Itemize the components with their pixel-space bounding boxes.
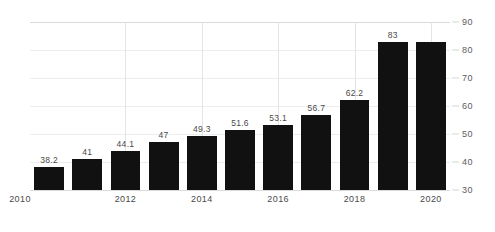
bar-2017: [301, 115, 331, 190]
y-tick-label-80: 80: [462, 45, 473, 55]
y-tick-mark: [452, 22, 459, 23]
bar-2018: [340, 100, 370, 190]
bar-value-label-2013: 47: [159, 130, 169, 140]
y-tick-label-60: 60: [462, 101, 473, 111]
bar-value-label-2010: 38.2: [40, 155, 58, 165]
y-tick-mark: [452, 78, 459, 79]
bar-2011: [72, 159, 102, 190]
bar-2016: [263, 125, 293, 190]
y-tick-label-50: 50: [462, 129, 473, 139]
y-tick-mark: [452, 50, 459, 51]
bar-value-label-2019: 83: [388, 30, 398, 40]
bar-2020: [416, 42, 446, 190]
y-tick-label-90: 90: [462, 17, 473, 27]
bar-2015: [225, 130, 255, 190]
bar-chart: 38.24144.14749.351.653.156.762.283 30405…: [0, 0, 495, 232]
bar-value-label-2012: 44.1: [117, 139, 135, 149]
bar-2019: [378, 42, 408, 190]
plot-area: 38.24144.14749.351.653.156.762.283: [30, 22, 450, 190]
x-tick-label-2012: 2012: [115, 194, 137, 204]
x-tick-label-2010: 2010: [9, 194, 31, 204]
y-tick-mark: [452, 190, 459, 191]
gridline-horizontal: [30, 22, 450, 23]
bar-value-label-2015: 51.6: [231, 118, 249, 128]
bar-2013: [149, 142, 179, 190]
x-tick-label-2014: 2014: [191, 194, 213, 204]
x-tick-label-2016: 2016: [267, 194, 289, 204]
bar-value-label-2016: 53.1: [269, 113, 287, 123]
bar-value-label-2014: 49.3: [193, 124, 211, 134]
y-tick-mark: [452, 134, 459, 135]
x-tick-label-2020: 2020: [420, 194, 442, 204]
y-tick-label-40: 40: [462, 157, 473, 167]
bar-2010: [34, 167, 64, 190]
bar-value-label-2011: 41: [82, 147, 92, 157]
y-tick-label-70: 70: [462, 73, 473, 83]
y-tick-mark: [452, 162, 459, 163]
y-tick-mark: [452, 106, 459, 107]
y-tick-label-30: 30: [462, 185, 473, 195]
bar-value-label-2018: 62.2: [346, 88, 364, 98]
x-tick-label-2018: 2018: [344, 194, 366, 204]
gridline-horizontal: [30, 190, 450, 191]
bar-2012: [111, 151, 141, 190]
bar-2014: [187, 136, 217, 190]
bar-value-label-2017: 56.7: [307, 103, 325, 113]
